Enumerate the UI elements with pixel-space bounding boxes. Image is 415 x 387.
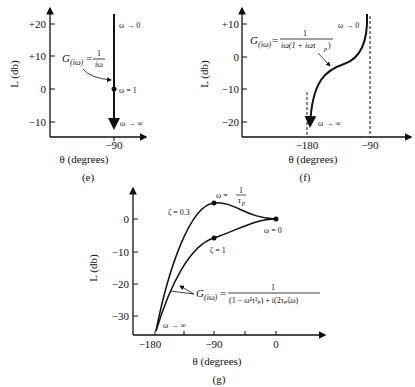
xtick-m90: −90 [361, 139, 379, 151]
point-zeta1 [212, 236, 217, 241]
plot-e: +20 +10 0 −10 −90 θ (degrees) (e) L (db)… [8, 8, 146, 184]
ytick-10: +10 [222, 18, 240, 30]
svg-text:1: 1 [271, 283, 275, 292]
ytick-m10: −10 [29, 116, 47, 128]
svg-text:ω =: ω = [216, 191, 228, 200]
caption-g: (g) [213, 373, 226, 386]
curve-zeta-1 [156, 219, 276, 331]
caption-f: (f) [300, 171, 311, 184]
svg-text:1: 1 [239, 186, 243, 195]
transfer-function-f: G (iω) = 1 iω(1 + iωτ p ) [250, 29, 333, 52]
label-w0: ω → 0 [338, 21, 359, 30]
svg-text:=: = [86, 52, 92, 64]
label-w0: ω → 0 [119, 21, 140, 30]
svg-text:=: = [220, 287, 226, 299]
point-w1 [112, 87, 117, 92]
ytick-m30: −30 [112, 310, 130, 322]
label-zeta-0.3: ζ = 0.3 [168, 208, 190, 217]
ytick-0: 0 [234, 51, 240, 63]
ytick-m20: −20 [112, 278, 130, 290]
plot-f: +10 0 −10 −20 −180 −90 θ (degrees) (f) L… [198, 8, 411, 184]
svg-text:=: = [272, 34, 278, 46]
transfer-function-e: G (iω) = 1 iω [62, 49, 105, 69]
caption-e: (e) [82, 171, 95, 184]
ytick-m10: −10 [222, 83, 240, 95]
svg-text:1: 1 [303, 29, 307, 38]
pointer-arrow [318, 53, 330, 66]
y-axis-label: L (db) [87, 254, 100, 282]
transfer-function-g: G (iω) = 1 (1 − ω²τ²ₚ) + i(2τₚζω) [196, 283, 320, 305]
point-w0 [274, 217, 279, 222]
x-axis-label: θ (degrees) [193, 355, 242, 368]
plot-g: 0 −10 −20 −30 −180 −90 0 θ (degrees) (g)… [87, 186, 325, 386]
label-w1: ω = 1 [119, 86, 137, 95]
y-axis-label: L (db) [198, 60, 211, 88]
svg-text:(iω): (iω) [204, 293, 218, 302]
label-winf: ω → ∞ [163, 321, 186, 330]
svg-text:(iω): (iω) [70, 58, 84, 67]
label-zeta-1: ζ = 1 [210, 246, 226, 255]
label-winf: ω → ∞ [318, 119, 341, 128]
svg-text:(iω): (iω) [258, 40, 272, 49]
x-axis-label: θ (degrees) [60, 153, 109, 166]
svg-text:iω: iω [95, 60, 103, 69]
y-axis-label: L (db) [8, 60, 21, 88]
svg-text:G: G [196, 287, 204, 299]
ytick-20: +20 [29, 18, 47, 30]
ytick-0: 0 [124, 213, 130, 225]
point-peak [212, 201, 217, 206]
svg-text:): ) [328, 41, 331, 50]
svg-text:p: p [323, 46, 327, 52]
curve-f [310, 14, 367, 126]
xtick-m180: −180 [296, 139, 319, 151]
svg-text:G: G [250, 34, 258, 46]
ytick-m20: −20 [222, 116, 240, 128]
xtick-m90: −90 [205, 338, 223, 350]
ytick-10: +10 [29, 50, 47, 62]
ytick-m10: −10 [112, 246, 130, 258]
xtick-0: 0 [273, 338, 279, 350]
label-winf: ω → ∞ [120, 119, 143, 128]
figure-canvas: +20 +10 0 −10 −90 θ (degrees) (e) L (db)… [0, 0, 415, 387]
xtick-m180: −180 [139, 338, 162, 350]
pointer-line-2 [170, 291, 194, 294]
svg-text:(1 − ω²τ²ₚ) + i(2τₚζω): (1 − ω²τ²ₚ) + i(2τₚζω) [229, 296, 298, 305]
label-w0: ω = 0 [264, 226, 282, 235]
pointer-arrow [83, 69, 111, 80]
svg-text:p: p [241, 200, 245, 206]
ytick-0: 0 [41, 83, 47, 95]
svg-text:G: G [62, 52, 70, 64]
svg-text:iω(1 + iωτ: iω(1 + iωτ [281, 41, 317, 50]
x-axis-label: θ (degrees) [289, 153, 338, 166]
svg-text:1: 1 [97, 49, 101, 58]
